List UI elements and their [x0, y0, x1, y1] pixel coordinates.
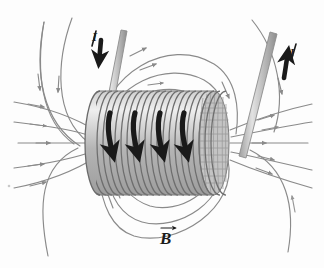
field-line-far-bottom-right: [250, 150, 291, 252]
field-arrow-outer-left-b: [58, 76, 59, 92]
field-arrow-top-1: [130, 48, 146, 56]
current-label-left: I: [92, 30, 97, 43]
solenoid-body: [85, 91, 229, 195]
field-arrow-top-3: [148, 83, 163, 85]
scan-speck: [8, 185, 11, 188]
lead-arrow-left-down: [99, 40, 101, 62]
field-line-right-out-1: [230, 104, 312, 130]
field-line-far-bottom-left: [43, 148, 78, 256]
lead-wire-right: [239, 32, 277, 158]
lead-arrow-right-up: [284, 52, 288, 78]
current-label-right: I: [290, 47, 294, 58]
field-arrow-outer-left-a: [38, 74, 40, 90]
field-arrow-top-1b: [222, 82, 229, 98]
field-arrow-left-in-3: [28, 164, 44, 166]
diagram-canvas: [0, 0, 324, 268]
field-arrow-right-out-1: [258, 115, 274, 120]
solenoid-field-diagram: I I B: [0, 0, 324, 268]
field-arrow-far-bottom-right: [292, 196, 295, 212]
magnetic-field-label: B: [160, 230, 171, 247]
field-arrow-left-in-2: [30, 124, 46, 126]
